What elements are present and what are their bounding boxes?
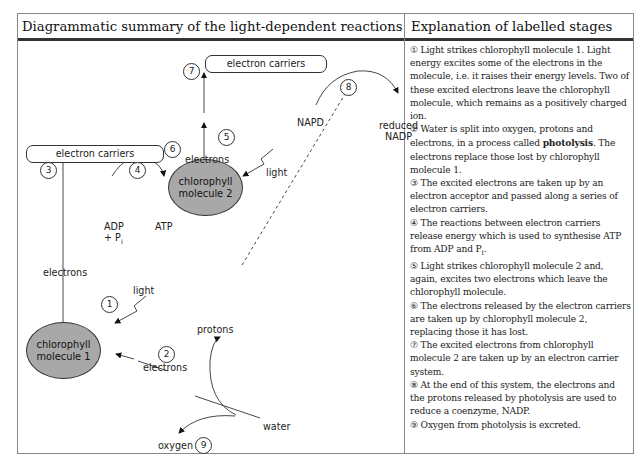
stage-number-4: 4 <box>129 162 146 179</box>
adp-text: ADP <box>104 221 124 232</box>
chloro2-label-line1: chlorophyll <box>179 176 233 188</box>
pi-subscript: i <box>121 238 123 246</box>
protons-label: protons <box>197 324 233 335</box>
diagram-arrows <box>18 41 404 455</box>
explanation-text: ① Light strikes chlorophyll molecule 1. … <box>410 44 632 432</box>
stage-4-explanation: ④ The reactions between electron carrier… <box>410 217 632 260</box>
stage-number-7: 7 <box>183 63 200 80</box>
diagram-column-title: Diagrammatic summary of the light-depend… <box>22 14 403 38</box>
adp-label: ADP + Pi <box>104 221 124 248</box>
stage-4-text-a: ④ The reactions between electron carrier… <box>410 218 621 254</box>
chloro1-label-line2: molecule 1 <box>37 351 91 363</box>
chloro1-label-line1: chlorophyll <box>37 339 91 351</box>
stage-number-3: 3 <box>40 162 57 179</box>
column-divider <box>404 14 405 453</box>
light-label-1: light <box>133 285 154 296</box>
electrons-label-left: electrons <box>43 267 87 278</box>
electrons-label-top: electrons <box>185 154 229 165</box>
stage-1-explanation: ① Light strikes chlorophyll molecule 1. … <box>410 44 632 123</box>
light-label-2: light <box>266 167 287 178</box>
stage-9-explanation: ⑨ Oxygen from photolysis is excreted. <box>410 419 632 432</box>
stage-number-2: 2 <box>158 346 175 363</box>
electrons-label-bottom: electrons <box>143 362 187 373</box>
stage-number-9: 9 <box>195 437 212 454</box>
stage-7-explanation: ⑦ The excited electrons from chlorophyll… <box>410 339 632 379</box>
stage-4-text-b: . <box>484 244 487 254</box>
chlorophyll-molecule-2: chlorophyll molecule 2 <box>168 159 243 216</box>
stage-3-explanation: ③ The excited electrons are taken up by … <box>410 177 632 217</box>
stage-5-explanation: ⑤ Light strikes chlorophyll molecule 2 a… <box>410 260 632 300</box>
stage-2-explanation: ② Water is split into oxygen, protons an… <box>410 123 632 177</box>
chloro2-label-line2: molecule 2 <box>179 188 233 200</box>
explanation-column-title: Explanation of labelled stages <box>411 14 612 38</box>
napd-label: NAPD <box>297 117 324 128</box>
electron-carriers-middle: electron carriers <box>26 145 164 163</box>
stage-number-5: 5 <box>218 129 235 146</box>
chlorophyll-molecule-1: chlorophyll molecule 1 <box>26 322 101 379</box>
stage-6-explanation: ⑥ The electrons released by the electron… <box>410 300 632 340</box>
table-header: Diagrammatic summary of the light-depend… <box>18 14 633 41</box>
stage-number-8: 8 <box>340 79 357 96</box>
water-label: water <box>263 421 290 432</box>
stage-8-explanation: ⑧ At the end of this system, the electro… <box>410 379 632 419</box>
photolysis-term: photolysis <box>543 137 593 148</box>
stage-number-1: 1 <box>101 296 118 313</box>
atp-label: ATP <box>155 221 172 232</box>
electron-carriers-top: electron carriers <box>205 55 327 73</box>
light-dependent-diagram: electron carriers electron carriers chlo… <box>18 41 404 455</box>
stage-number-6: 6 <box>164 141 181 158</box>
oxygen-label: oxygen <box>158 440 193 451</box>
summary-table: Diagrammatic summary of the light-depend… <box>17 13 634 454</box>
pi-text: + P <box>104 232 121 243</box>
